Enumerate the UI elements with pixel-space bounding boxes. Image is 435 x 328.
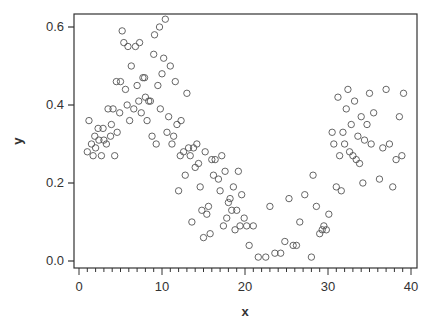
data-point	[338, 188, 344, 194]
data-point	[376, 176, 382, 182]
data-point	[225, 199, 231, 205]
data-point	[108, 121, 114, 127]
data-point	[366, 90, 372, 96]
data-point	[111, 153, 117, 159]
x-axis-label: x	[241, 304, 249, 319]
data-point	[353, 156, 359, 162]
data-point	[107, 133, 113, 139]
data-point	[227, 195, 233, 201]
x-tick-label: 0	[75, 279, 82, 294]
data-point	[246, 242, 252, 248]
data-point	[200, 234, 206, 240]
y-tick-label: 0.0	[46, 253, 64, 268]
data-point	[219, 153, 225, 159]
data-point	[110, 106, 116, 112]
data-point	[184, 90, 190, 96]
data-point	[345, 86, 351, 92]
data-point	[205, 203, 211, 209]
data-point	[308, 254, 314, 260]
data-point	[234, 207, 240, 213]
y-axis: 0.00.20.40.6	[46, 19, 74, 268]
data-point	[364, 121, 370, 127]
data-point	[86, 117, 92, 123]
data-point	[343, 106, 349, 112]
data-point	[182, 172, 188, 178]
data-point	[263, 254, 269, 260]
data-point	[187, 153, 193, 159]
data-point	[297, 219, 303, 225]
data-point	[396, 114, 402, 120]
data-point	[250, 223, 256, 229]
plot-frame	[74, 14, 417, 268]
data-point	[356, 160, 362, 166]
data-point	[114, 129, 120, 135]
data-point	[329, 129, 335, 135]
data-point	[119, 28, 125, 34]
data-point	[88, 141, 94, 147]
data-point	[331, 141, 337, 147]
data-point	[155, 82, 161, 88]
data-point	[128, 63, 134, 69]
data-point	[149, 133, 155, 139]
data-point	[224, 215, 230, 221]
data-point	[361, 137, 367, 143]
data-point	[207, 231, 213, 237]
data-point	[84, 149, 90, 155]
data-point	[326, 211, 332, 217]
data-point	[164, 129, 170, 135]
data-point	[189, 219, 195, 225]
scatter-chart: 0.00.20.40.6 010203040 x y	[0, 0, 435, 328]
data-point	[165, 114, 171, 120]
data-point	[346, 149, 352, 155]
data-point	[126, 117, 132, 123]
data-point	[121, 39, 127, 45]
data-point	[313, 203, 319, 209]
data-point	[197, 184, 203, 190]
data-point	[335, 94, 341, 100]
data-points	[84, 16, 407, 260]
data-point	[194, 141, 200, 147]
data-point	[267, 203, 273, 209]
data-point	[368, 141, 374, 147]
data-point	[340, 129, 346, 135]
data-point	[116, 110, 122, 116]
data-point	[117, 78, 123, 84]
data-point	[235, 168, 241, 174]
data-point	[136, 98, 142, 104]
data-point	[393, 156, 399, 162]
data-point	[282, 238, 288, 244]
data-point	[172, 78, 178, 84]
data-point	[380, 145, 386, 151]
data-point	[122, 86, 128, 92]
data-point	[134, 82, 140, 88]
data-point	[138, 110, 144, 116]
data-point	[156, 24, 162, 30]
data-point	[178, 117, 184, 123]
data-point	[336, 153, 342, 159]
data-point	[92, 145, 98, 151]
data-point	[348, 121, 354, 127]
data-point	[125, 43, 131, 49]
data-point	[124, 102, 130, 108]
x-tick-label: 40	[404, 279, 418, 294]
data-point	[100, 125, 106, 131]
data-point	[190, 145, 196, 151]
data-point	[286, 195, 292, 201]
data-point	[399, 153, 405, 159]
data-point	[390, 184, 396, 190]
data-point	[167, 63, 173, 69]
y-tick-label: 0.6	[46, 19, 64, 34]
data-point	[241, 215, 247, 221]
data-point	[177, 153, 183, 159]
data-point	[131, 106, 137, 112]
data-point	[132, 43, 138, 49]
data-point	[358, 114, 364, 120]
data-point	[222, 168, 228, 174]
data-point	[90, 153, 96, 159]
x-tick-label: 10	[155, 279, 169, 294]
data-point	[162, 16, 168, 22]
data-point	[92, 133, 98, 139]
data-point	[243, 223, 249, 229]
data-point	[383, 86, 389, 92]
y-tick-label: 0.2	[46, 175, 64, 190]
